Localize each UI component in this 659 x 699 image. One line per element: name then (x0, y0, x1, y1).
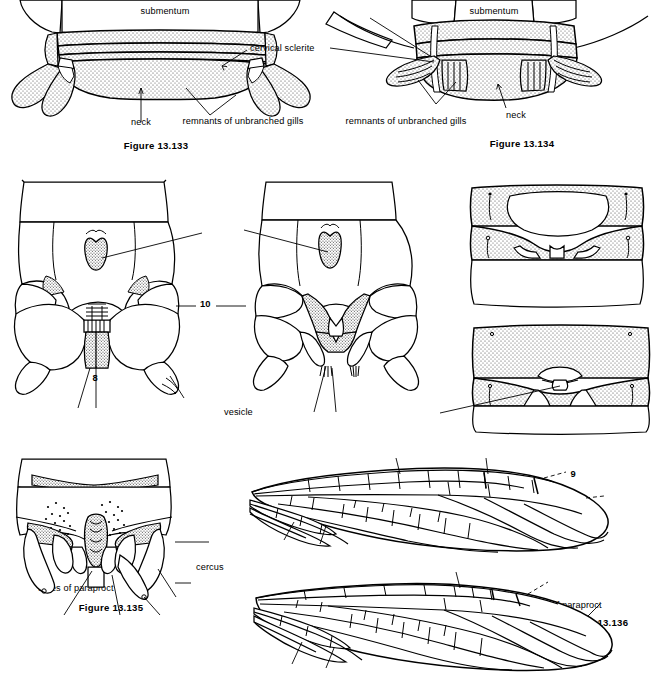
figure-13-137-drawing (462, 180, 652, 310)
figure-13-133-drawing (0, 0, 330, 150)
label-cervical-sclerite: cervical sclerite (250, 44, 315, 53)
caption-13-134: Figure 13.134 (490, 138, 555, 149)
figure-13-141: Sc terminal costal crossvein R1 A2 A1 Fi… (248, 568, 648, 693)
caption-13-133: Figure 13.133 (124, 140, 189, 151)
figure-13-138-drawing (468, 320, 654, 435)
label-segment-8: 8 (92, 372, 97, 383)
illustration-plate: submentum cervical sclerite neck remnant… (0, 0, 659, 699)
segment-10-leaders (176, 294, 246, 314)
figure-13-140: C Sc terminal costal crossvein R1 A2 A1 … (248, 452, 648, 567)
figure-13-134: submentum remnants of unbranched gills n… (330, 0, 659, 150)
label-remnants-of-unbranched-gills: remnants of unbranched gills (346, 117, 467, 126)
figure-13-139-leaders (175, 535, 215, 595)
label-submentum: submentum (141, 7, 190, 16)
label-submentum: submentum (470, 7, 519, 16)
figure-13-140-drawing (248, 452, 648, 567)
label-neck: neck (506, 111, 526, 120)
figure-13-138: 7 9 nipple Figure 13.138 (468, 320, 654, 435)
figure-13-136: 8 9 lobes of paraproct Figure 13.136 (244, 180, 444, 430)
figure-13-136-drawing (244, 180, 444, 430)
figure-13-134-drawing (330, 0, 659, 150)
label-neck: neck (131, 118, 151, 127)
figure-13-133: submentum cervical sclerite neck remnant… (0, 0, 330, 150)
figure-13-141-drawing (248, 568, 648, 693)
figure-13-137: 7 9 Figure 13.137 (462, 180, 652, 310)
label-remnants-of-unbranched-gills: remnants of unbranched gills (183, 117, 304, 126)
